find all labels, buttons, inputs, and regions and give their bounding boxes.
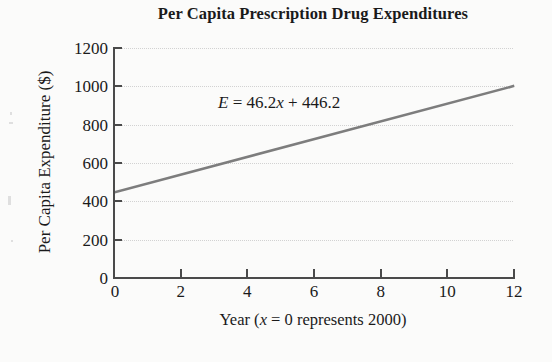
y-tick-800 [113,124,122,126]
y-tick-1000 [113,85,122,87]
x-axis-title: Year (x = 0 represents 2000) [113,310,513,330]
equation-slope: 46.2 [246,93,276,112]
x-axis-title-before: Year ( [220,310,260,329]
y-tick-400 [113,200,122,202]
y-tick-label-600: 600 [48,155,108,172]
y-tick-label-400: 400 [48,193,108,210]
x-tick-label-10: 10 [427,283,467,300]
x-tick-label-4: 4 [227,283,267,300]
y-tick-label-1000: 1000 [48,78,108,95]
y-tick-label-800: 800 [48,117,108,134]
x-axis-title-variable: x [260,310,267,329]
y-tick-600 [113,162,122,164]
x-tick-label-0: 0 [95,283,135,300]
scan-speckle [8,196,11,205]
equation-annotation: E = 46.2x + 446.2 [218,93,340,113]
data-line [113,48,515,279]
scan-speckle [10,112,12,115]
y-tick-labels: 1200 1000 800 600 400 200 0 [46,0,108,362]
y-tick-label-1200: 1200 [48,40,108,57]
equation-equals: = [228,93,246,112]
y-tick-1200 [113,47,122,49]
scan-speckle [9,122,13,124]
equation-plus: + [284,93,302,112]
x-tick-6 [313,269,315,278]
y-tick-label-200: 200 [48,232,108,249]
x-tick-12 [513,269,515,278]
x-axis-title-after: = 0 represents 2000) [267,310,406,329]
chart-title: Per Capita Prescription Drug Expenditure… [113,4,513,24]
x-tick-8 [380,269,382,278]
x-tick-label-12: 12 [494,283,534,300]
y-tick-200 [113,239,122,241]
equation-variable: x [276,93,284,112]
equation-intercept: 446.2 [302,93,340,112]
x-tick-4 [246,269,248,278]
equation-lhs: E [218,93,228,112]
scan-speckle [11,240,13,242]
chart-figure: Per Capita Prescription Drug Expenditure… [0,0,552,362]
x-tick-label-8: 8 [361,283,401,300]
x-tick-label-2: 2 [161,283,201,300]
x-tick-2 [180,269,182,278]
x-tick-10 [446,269,448,278]
x-tick-label-6: 6 [294,283,334,300]
